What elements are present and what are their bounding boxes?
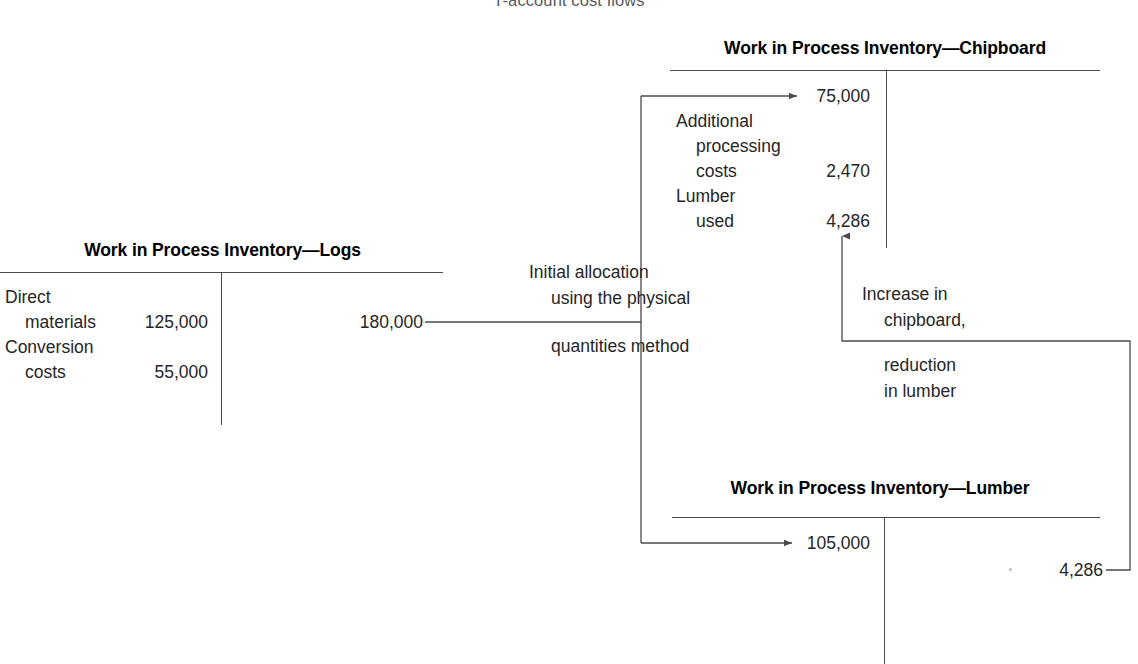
- chipboard-debit-amount-1: 75,000: [735, 84, 870, 109]
- logs-debit-label-1-line2: materials: [5, 310, 96, 335]
- chipboard-debit-amount-3: 4,286: [735, 209, 870, 234]
- t-account-chipboard-divider: [886, 70, 887, 248]
- figure-title: T-account cost flows: [0, 0, 1138, 10]
- t-account-lumber-title: Work in Process Inventory—Lumber: [665, 478, 1095, 499]
- t-account-logs-title: Work in Process Inventory—Logs: [10, 240, 435, 261]
- flow-initial-allocation-line1: Initial allocation: [529, 262, 649, 282]
- chipboard-debit-label-3-line1: Lumber: [676, 186, 735, 206]
- logs-debit-label-2-line1: Conversion: [5, 337, 94, 357]
- chipboard-debit-label-3-line2: used: [676, 209, 735, 234]
- lumber-debit-amount-1: 105,000: [730, 531, 870, 556]
- logs-credit-amount-1: 180,000: [305, 310, 423, 335]
- t-account-lumber-divider: [884, 517, 885, 664]
- chipboard-debit-label-2-line2: processing: [676, 134, 781, 159]
- flow-swap-line2: chipboard,: [862, 307, 966, 333]
- chipboard-debit-label-3: Lumber used: [676, 184, 735, 234]
- flow-swap-line1: Increase in: [862, 284, 948, 304]
- logs-debit-label-1: Direct materials: [5, 285, 96, 335]
- logs-debit-label-1-line1: Direct: [5, 287, 51, 307]
- chipboard-debit-amount-2: 2,470: [735, 159, 870, 184]
- t-account-chipboard-rule: [670, 70, 1100, 71]
- logs-debit-label-2-line2: costs: [5, 360, 94, 385]
- t-account-chipboard-title: Work in Process Inventory—Chipboard: [670, 38, 1100, 59]
- logs-debit-amount-1: 125,000: [95, 310, 208, 335]
- flow-label-initial-allocation-cont: quantities method: [551, 333, 689, 359]
- t-account-lumber-rule: [672, 517, 1100, 518]
- chipboard-debit-label-2-line1: Additional: [676, 111, 753, 131]
- flow-label-swap-bottom: reduction in lumber: [884, 352, 956, 404]
- flow-swap-line3: reduction: [884, 355, 956, 375]
- figure-canvas: T-account cost flows Work in Process Inv…: [0, 0, 1138, 664]
- flow-initial-allocation-line3: quantities method: [551, 336, 689, 356]
- lumber-credit-amount-1: 4,286: [978, 558, 1103, 583]
- logs-debit-label-2: Conversion costs: [5, 335, 94, 385]
- flow-initial-allocation-line2: using the physical: [529, 285, 690, 311]
- flow-label-initial-allocation: Initial allocation using the physical: [529, 259, 690, 311]
- t-account-logs-divider: [221, 272, 222, 425]
- logs-debit-amount-2: 55,000: [95, 360, 208, 385]
- flow-swap-line4: in lumber: [884, 378, 956, 404]
- flow-label-swap-top: Increase in chipboard,: [862, 281, 966, 333]
